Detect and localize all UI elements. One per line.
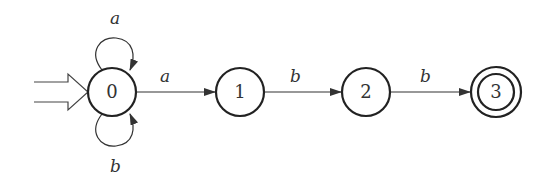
svg-text:b: b	[290, 66, 301, 86]
self-loop-a: a	[96, 8, 133, 70]
label-loop-a: a	[110, 8, 120, 28]
start-arrow	[34, 74, 88, 110]
state-0: 0	[88, 68, 136, 116]
nfa-diagram: a b a b b 0 1 2 3	[0, 0, 541, 184]
svg-text:0: 0	[106, 81, 117, 102]
state-2: 2	[342, 68, 390, 116]
svg-text:2: 2	[360, 81, 371, 102]
state-1: 1	[216, 68, 264, 116]
svg-text:3: 3	[490, 81, 501, 102]
svg-text:b: b	[420, 66, 431, 86]
edge-1-2: b	[265, 66, 341, 92]
svg-text:1: 1	[234, 81, 245, 102]
edge-0-1: a	[137, 66, 215, 92]
edge-2-3: b	[391, 66, 470, 92]
svg-text:a: a	[160, 66, 170, 86]
state-3-accept: 3	[471, 67, 521, 117]
self-loop-b: b	[96, 114, 133, 176]
label-loop-b: b	[110, 156, 121, 176]
